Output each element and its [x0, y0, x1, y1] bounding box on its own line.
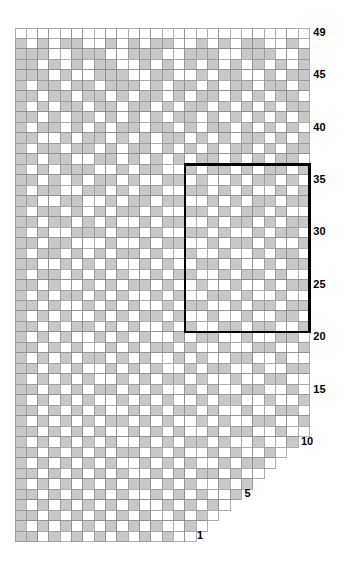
chart-cell-filled: [185, 185, 196, 195]
chart-cell-filled: [140, 332, 151, 342]
chart-cell-filled: [140, 458, 151, 468]
chart-cell-filled: [128, 38, 139, 48]
chart-cell-filled: [26, 154, 37, 164]
chart-cell-empty: [207, 321, 218, 331]
chart-cell-empty: [83, 269, 94, 279]
chart-cell-empty: [94, 196, 105, 206]
chart-cell-empty: [162, 447, 173, 457]
chart-cell-empty: [117, 112, 128, 122]
chart-cell-filled: [219, 248, 230, 258]
chart-cell-filled: [106, 59, 117, 69]
chart-cell-empty: [162, 363, 173, 373]
chart-cell-empty: [253, 468, 264, 478]
chart-cell-empty: [207, 489, 218, 499]
chart-cell-filled: [162, 238, 173, 248]
chart-cell-filled: [15, 332, 26, 342]
chart-cell-filled: [106, 458, 117, 468]
chart-cell-filled: [241, 405, 252, 415]
chart-cell-filled: [15, 175, 26, 185]
chart-cell-filled: [230, 70, 241, 80]
chart-cell-filled: [128, 49, 139, 59]
chart-cell-filled: [196, 70, 207, 80]
chart-cell-empty: [128, 468, 139, 478]
chart-cell-filled: [185, 143, 196, 153]
chart-cell-filled: [151, 38, 162, 48]
chart-cell-filled: [60, 164, 71, 174]
chart-cell-empty: [173, 342, 184, 352]
chart-cell-empty: [38, 531, 49, 541]
chart-cell-filled: [275, 290, 286, 300]
chart-cell-filled: [275, 311, 286, 321]
chart-cell-empty: [162, 269, 173, 279]
chart-cell-empty: [230, 269, 241, 279]
chart-cell-filled: [26, 70, 37, 80]
chart-cell-filled: [185, 342, 196, 352]
chart-cell-empty: [241, 280, 252, 290]
chart-cell-filled: [49, 112, 60, 122]
chart-cell-empty: [128, 59, 139, 69]
chart-cell-filled: [219, 38, 230, 48]
chart-cell-empty: [241, 28, 252, 38]
chart-cell-filled: [162, 122, 173, 132]
chart-cell-empty: [253, 164, 264, 174]
chart-cell-empty: [140, 290, 151, 300]
chart-cell-filled: [94, 101, 105, 111]
chart-cell-filled: [207, 447, 218, 457]
chart-cell-filled: [117, 248, 128, 258]
chart-cell-empty: [26, 227, 37, 237]
chart-cell-filled: [230, 59, 241, 69]
chart-cell-empty: [49, 101, 60, 111]
chart-cell-filled: [253, 363, 264, 373]
chart-cell-empty: [128, 311, 139, 321]
chart-cell-filled: [275, 112, 286, 122]
chart-cell-empty: [219, 332, 230, 342]
chart-cell-empty: [173, 500, 184, 510]
chart-cell-filled: [117, 91, 128, 101]
chart-cell-filled: [298, 70, 309, 80]
chart-cell-empty: [298, 175, 309, 185]
chart-cell-empty: [275, 196, 286, 206]
chart-cell-filled: [253, 133, 264, 143]
chart-cell-filled: [60, 332, 71, 342]
chart-cell-filled: [60, 479, 71, 489]
chart-cell-filled: [15, 321, 26, 331]
chart-cell-empty: [230, 185, 241, 195]
chart-cell-filled: [287, 259, 298, 269]
chart-cell-filled: [196, 489, 207, 499]
chart-cell-empty: [128, 28, 139, 38]
chart-cell-filled: [83, 227, 94, 237]
chart-cell-empty: [140, 521, 151, 531]
chart-cell-empty: [117, 405, 128, 415]
chart-cell-empty: [60, 531, 71, 541]
chart-cell-empty: [253, 332, 264, 342]
chart-cell-empty: [207, 300, 218, 310]
chart-cell-filled: [94, 206, 105, 216]
chart-cell-empty: [241, 300, 252, 310]
chart-cell-filled: [230, 321, 241, 331]
chart-cell-empty: [264, 112, 275, 122]
chart-cell-filled: [128, 143, 139, 153]
chart-cell-empty: [275, 321, 286, 331]
chart-cell-empty: [94, 416, 105, 426]
chart-cell-filled: [94, 353, 105, 363]
chart-cell-filled: [117, 80, 128, 90]
chart-cell-empty: [60, 227, 71, 237]
chart-cell-filled: [94, 426, 105, 436]
chart-cell-filled: [298, 112, 309, 122]
chart-cell-filled: [15, 521, 26, 531]
chart-cell-filled: [298, 196, 309, 206]
chart-cell-empty: [151, 458, 162, 468]
chart-cell-empty: [162, 510, 173, 520]
chart-cell-filled: [275, 154, 286, 164]
chart-cell-filled: [196, 416, 207, 426]
chart-cell-empty: [219, 112, 230, 122]
chart-cell-empty: [219, 196, 230, 206]
chart-cell-empty: [162, 290, 173, 300]
chart-cell-empty: [162, 405, 173, 415]
chart-cell-filled: [26, 447, 37, 457]
chart-cell-filled: [264, 122, 275, 132]
chart-cell-filled: [241, 217, 252, 227]
chart-cell-filled: [72, 112, 83, 122]
chart-cell-filled: [49, 59, 60, 69]
chart-cell-filled: [173, 510, 184, 520]
